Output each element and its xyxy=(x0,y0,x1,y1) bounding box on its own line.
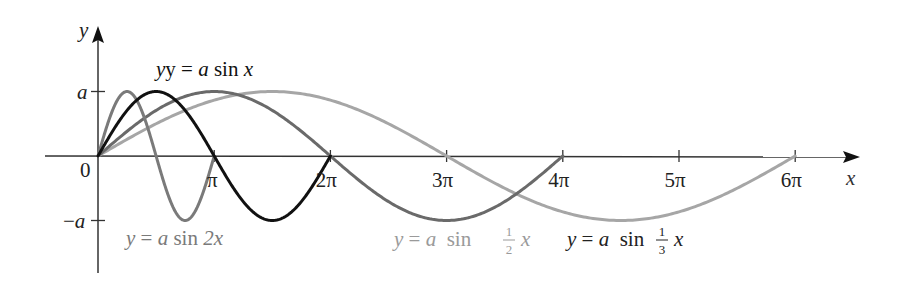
label-sin-half-x: y = a sin 1 2 x xyxy=(392,224,531,257)
label-eq: = xyxy=(403,227,425,251)
label-sin-x: yy = a sin x xyxy=(154,57,254,81)
label-a: a xyxy=(158,226,169,250)
label-eq: y = xyxy=(165,57,198,81)
x-tick-label: π xyxy=(207,168,218,192)
label-y: y xyxy=(154,57,166,81)
x-tick-label: 6π xyxy=(781,168,803,192)
label-a: a xyxy=(426,227,437,251)
label-y: y xyxy=(565,227,577,251)
frac-den: 2 xyxy=(506,242,513,257)
x-axis-label: x xyxy=(845,166,856,190)
label-y: y xyxy=(392,227,404,251)
x-tick-label: 4π xyxy=(548,168,570,192)
y-tick-label: a xyxy=(77,80,88,104)
x-tick-label: 3π xyxy=(432,168,454,192)
origin-label: 0 xyxy=(80,158,91,182)
label-arg: x xyxy=(673,227,684,251)
sine-graphs-diagram: π2π3π4π5π6πa−a y x 0 yy = a sin x y = a … xyxy=(0,0,898,282)
x-tick-label: 5π xyxy=(664,168,686,192)
frac-den: 3 xyxy=(659,242,666,257)
label-eq: = xyxy=(576,227,598,251)
label-a: a xyxy=(198,57,209,81)
frac-num: 1 xyxy=(659,224,666,239)
label-arg: 2x xyxy=(203,226,224,250)
svg-text:y = a sin: y = a sin xyxy=(565,227,649,251)
label-y: y xyxy=(124,226,136,250)
y-axis-label: y xyxy=(77,18,89,42)
frac-num: 1 xyxy=(506,224,513,239)
svg-text:y = a sin: y = a sin xyxy=(392,227,476,251)
label-func: sin xyxy=(609,227,649,251)
x-tick-label: 2π xyxy=(316,168,338,192)
label-a: a xyxy=(599,227,610,251)
y-tick-label: −a xyxy=(63,209,85,233)
label-sin-2x: y = a sin 2x xyxy=(124,226,224,250)
label-func: sin xyxy=(168,226,203,250)
label-func: sin xyxy=(436,227,476,251)
label-eq: = xyxy=(135,226,157,250)
label-func: sin xyxy=(209,57,244,81)
label-arg: x xyxy=(243,57,254,81)
label-sin-third-x: y = a sin 1 3 x xyxy=(565,224,684,257)
label-arg: x xyxy=(520,227,531,251)
